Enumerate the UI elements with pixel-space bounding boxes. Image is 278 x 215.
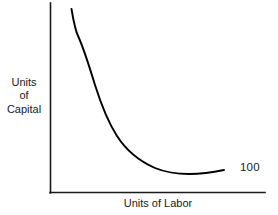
y-axis-label-line-3: Capital bbox=[0, 103, 48, 116]
x-axis-label: Units of Labor bbox=[50, 197, 266, 210]
isoquant-curve bbox=[72, 9, 225, 174]
isoquant-curve-label: 100 bbox=[240, 160, 260, 174]
y-axis-label: Units of Capital bbox=[0, 76, 48, 116]
y-axis-label-line-2: of bbox=[0, 89, 48, 102]
y-axis-label-line-1: Units bbox=[0, 76, 48, 89]
isoquant-figure: Units of Capital Units of Labor 100 bbox=[0, 0, 278, 215]
